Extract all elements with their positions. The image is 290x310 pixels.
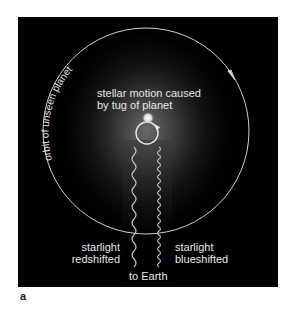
- blueshift-label: starlight blueshifted: [175, 241, 228, 265]
- panel-label: a: [20, 290, 26, 302]
- star: [142, 112, 154, 124]
- diagram-graphics: orbit of unseen planet: [18, 17, 278, 287]
- blueshift-line-1: starlight: [175, 241, 228, 253]
- diagram-panel: orbit of unseen planet stellar motion ca…: [18, 17, 278, 287]
- redshift-label: starlight redshifted: [72, 241, 120, 265]
- redshift-line-2: redshifted: [72, 253, 120, 265]
- redshift-line-1: starlight: [72, 241, 120, 253]
- stellar-motion-label: stellar motion caused by tug of planet: [97, 87, 201, 111]
- stellar-motion-line-2: by tug of planet: [97, 99, 201, 111]
- light-beam: [122, 140, 172, 270]
- earth-label: to Earth: [129, 270, 168, 282]
- blueshift-line-2: blueshifted: [175, 253, 228, 265]
- stellar-motion-line-1: stellar motion caused: [97, 87, 201, 99]
